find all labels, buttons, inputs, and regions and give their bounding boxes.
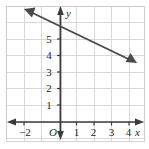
x-tick-label-3: 3 [106, 127, 117, 138]
y-tick-label-2: 2 [43, 83, 55, 94]
y-tick-label-5: 5 [43, 34, 55, 45]
x-tick-label-2: 2 [88, 127, 99, 138]
x-tick-label-1: 1 [71, 127, 82, 138]
y-tick-label-3: 3 [43, 67, 55, 78]
y-axis-label: y [66, 8, 71, 19]
x-tick-label-minus2: −2 [16, 127, 34, 138]
x-axis-label: x [135, 127, 140, 138]
y-tick-label-4: 4 [43, 50, 55, 61]
coordinate-plane-figure: 5 4 3 2 1 −2 1 2 3 4 O y x [0, 0, 149, 149]
y-tick-label-1: 1 [43, 100, 55, 111]
x-tick-label-4: 4 [123, 127, 134, 138]
origin-label: O [49, 127, 57, 138]
